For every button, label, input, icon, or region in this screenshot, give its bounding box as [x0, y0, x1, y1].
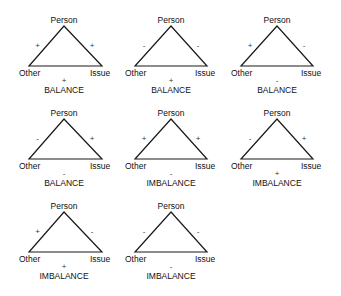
edge-sign-other-issue: - — [170, 263, 173, 271]
vertex-label-person: Person — [158, 201, 185, 211]
edge-sign-person-other: - — [143, 228, 146, 236]
edge-sign-person-issue: - — [197, 228, 200, 236]
balance-status-label: IMBALANCE — [146, 271, 195, 281]
vertex-label-other: Other — [125, 254, 146, 264]
vertex-label-issue: Issue — [195, 254, 215, 264]
triangle-shape — [0, 0, 341, 296]
